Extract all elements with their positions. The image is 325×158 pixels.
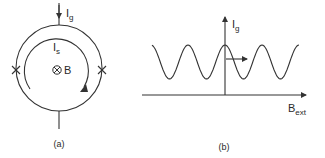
into-page-icon [53, 66, 61, 74]
field-label: B [64, 64, 71, 76]
x-axis-label: Bext [288, 102, 307, 117]
diagram-canvas: Ig Is B (a) Ig Bext (b) [0, 0, 325, 158]
caption-b: (b) [219, 142, 230, 152]
y-axis-label: Ig [232, 18, 240, 33]
caption-a: (a) [54, 139, 65, 149]
panel-b: Ig Bext (b) [142, 17, 307, 152]
panel-a: Ig Is B (a) [12, 3, 106, 149]
screening-current-label: Is [53, 41, 60, 56]
gate-current-label: Ig [66, 7, 74, 22]
screening-current-arrowhead-icon [80, 84, 88, 92]
